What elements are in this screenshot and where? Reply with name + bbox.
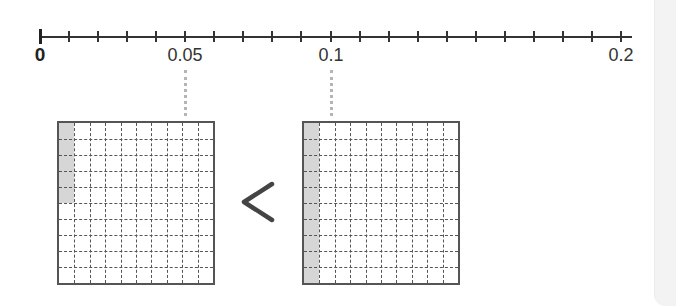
tick-mark <box>475 31 477 42</box>
less-than-icon <box>238 178 278 226</box>
tick-mark <box>388 31 390 42</box>
number-line-axis <box>40 36 632 38</box>
grid-line-horizontal <box>59 251 213 252</box>
grid-line-horizontal <box>59 267 213 268</box>
grid-line-horizontal <box>304 267 458 268</box>
number-line: 0 0.05 0.1 0.2 <box>0 0 654 70</box>
grid-line-horizontal <box>59 235 213 236</box>
tick-mark <box>184 31 186 42</box>
tick-mark <box>155 31 157 42</box>
side-scroll-panel <box>654 0 676 306</box>
tick-mark <box>620 31 622 42</box>
grid-line-horizontal <box>59 155 213 156</box>
grid-line-horizontal <box>59 187 213 188</box>
grid-line-horizontal <box>304 235 458 236</box>
grid-line-horizontal <box>304 155 458 156</box>
tick-label-0: 0 <box>35 45 46 65</box>
tick-mark <box>242 31 244 42</box>
tick-mark <box>97 31 99 42</box>
tick-mark <box>417 31 419 42</box>
tick-label-0-05: 0.05 <box>167 45 202 65</box>
tick-mark <box>446 31 448 42</box>
grid-line-horizontal <box>59 171 213 172</box>
grid-line-horizontal <box>304 187 458 188</box>
tick-mark <box>504 31 506 42</box>
grid-line-horizontal <box>304 203 458 204</box>
grid-line-horizontal <box>59 203 213 204</box>
tick-mark <box>300 31 302 42</box>
connector-0-1 <box>330 70 333 116</box>
tick-label-0-2: 0.2 <box>608 45 633 65</box>
hundred-grid-right <box>302 121 460 285</box>
grid-line-horizontal <box>304 251 458 252</box>
shaded-cells <box>59 123 74 203</box>
grid-cells <box>304 123 458 283</box>
tick-mark <box>213 31 215 42</box>
tick-mark <box>591 31 593 42</box>
tick-mark <box>39 29 42 44</box>
grid-line-horizontal <box>304 139 458 140</box>
hundred-grid-left <box>57 121 215 285</box>
grid-line-horizontal <box>304 219 458 220</box>
tick-label-0-1: 0.1 <box>318 45 343 65</box>
tick-mark <box>533 31 535 42</box>
tick-mark <box>126 31 128 42</box>
tick-mark <box>562 31 564 42</box>
connector-0-05 <box>184 70 187 116</box>
grid-line-horizontal <box>304 171 458 172</box>
grid-cells <box>59 123 213 283</box>
tick-mark <box>330 31 332 42</box>
tick-mark <box>359 31 361 42</box>
grid-line-horizontal <box>59 219 213 220</box>
grid-line-horizontal <box>59 139 213 140</box>
tick-mark <box>271 31 273 42</box>
tick-mark <box>68 31 70 42</box>
